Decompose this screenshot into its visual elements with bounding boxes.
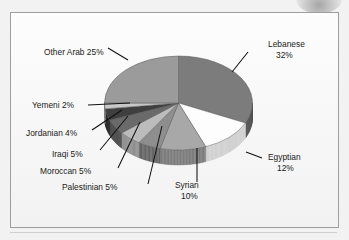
label-other-arab: Other Arab 25% [44, 47, 104, 57]
label-moroccan: Moroccan 5% [40, 166, 92, 176]
label-jordanian: Jordanian 4% [26, 128, 78, 138]
leader-line-3 [108, 48, 128, 60]
label-iraqi: Iraqi 5% [52, 149, 83, 159]
label-lebanese-value: 32% [276, 50, 293, 60]
label-egyptian-name: Egyptian [268, 152, 301, 162]
page-rule [10, 232, 337, 233]
label-syrian-name: Syrian [175, 180, 199, 190]
pie-chart: Lebanese 32% Egyptian 12% Syrian 10% Oth… [0, 0, 349, 240]
label-palestinian: Palestinian 5% [62, 182, 118, 192]
label-egyptian-value: 12% [277, 163, 294, 173]
figure-canvas: Lebanese 32% Egyptian 12% Syrian 10% Oth… [0, 0, 349, 240]
label-lebanese-name: Lebanese [268, 39, 305, 49]
label-yemeni: Yemeni 2% [32, 100, 75, 110]
pie-slice-other-arab [105, 56, 179, 103]
label-syrian-value: 10% [181, 191, 198, 201]
leader-line-0 [232, 52, 248, 72]
leader-line-1 [246, 152, 262, 158]
